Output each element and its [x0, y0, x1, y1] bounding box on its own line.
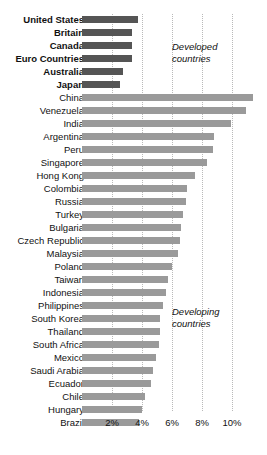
bar	[82, 42, 132, 49]
bar-label: Poland	[0, 261, 84, 272]
bar	[82, 120, 231, 127]
bar-row: Ecuador	[0, 378, 267, 391]
bar	[82, 55, 132, 62]
bar-label: South Korea	[0, 313, 84, 324]
bar-row: Venezuela	[0, 105, 267, 118]
bar-label: Turkey	[0, 209, 84, 220]
bar-row: Taiwan	[0, 274, 267, 287]
bar	[82, 302, 163, 309]
bar-label: Canada	[0, 40, 84, 51]
bar-row: Malaysia	[0, 248, 267, 261]
annotation-developing-line1: Developing	[172, 306, 220, 318]
bar	[82, 133, 214, 140]
x-axis: 2%4%6%8%10%	[0, 417, 267, 431]
annotation-developed-countries: Developed countries	[172, 41, 217, 64]
bar-label: Indonesia	[0, 287, 84, 298]
bar-label: Argentina	[0, 131, 84, 142]
bar-row: Hong Kong	[0, 170, 267, 183]
bar-label: Thailand	[0, 326, 84, 337]
bar-label: China	[0, 92, 84, 103]
bar-row: Japan	[0, 79, 267, 92]
bar-row: Euro Countries	[0, 53, 267, 66]
bar	[82, 289, 166, 296]
bar-row: Canada	[0, 40, 267, 53]
bar-row: Russia	[0, 196, 267, 209]
bar-label: Colombia	[0, 183, 84, 194]
bar-row: China	[0, 92, 267, 105]
chart-bar-rows: United StatesBritainCanadaEuro Countries…	[0, 14, 267, 430]
bar	[82, 406, 142, 413]
bar	[82, 315, 160, 322]
bar	[82, 185, 187, 192]
bar-row: Hungary	[0, 404, 267, 417]
bar-label: Bulgaria	[0, 222, 84, 233]
bar-label: India	[0, 118, 84, 129]
bar-label: Saudi Arabia	[0, 365, 84, 376]
x-axis-tick-label: 6%	[165, 417, 179, 428]
bar-row: South Africa	[0, 339, 267, 352]
bar-label: Hong Kong	[0, 170, 84, 181]
bar-row: Colombia	[0, 183, 267, 196]
bar-label: Philippines	[0, 300, 84, 311]
bar-label: Malaysia	[0, 248, 84, 259]
bar-row: Czech Republic	[0, 235, 267, 248]
bar	[82, 94, 253, 101]
bar-row: Mexico	[0, 352, 267, 365]
bar-label: Singapore	[0, 157, 84, 168]
bar-row: Argentina	[0, 131, 267, 144]
bar	[82, 16, 138, 23]
bar-row: South Korea	[0, 313, 267, 326]
bar	[82, 224, 181, 231]
bar-row: Australia	[0, 66, 267, 79]
x-axis-tick-label: 8%	[195, 417, 209, 428]
bar	[82, 237, 180, 244]
bar	[82, 159, 207, 166]
bar-label: Japan	[0, 79, 84, 90]
bar-label: Euro Countries	[0, 53, 84, 64]
bar-row: Singapore	[0, 157, 267, 170]
bar	[82, 380, 151, 387]
bar-label: South Africa	[0, 339, 84, 350]
bar-label: Taiwan	[0, 274, 84, 285]
bar	[82, 393, 145, 400]
bar-row: Poland	[0, 261, 267, 274]
bar	[82, 211, 183, 218]
annotation-developing-countries: Developing countries	[172, 306, 220, 329]
bar-row: Britain	[0, 27, 267, 40]
bar	[82, 354, 156, 361]
x-axis-tick-label: 4%	[135, 417, 149, 428]
bar-label: Australia	[0, 66, 84, 77]
bar	[82, 276, 168, 283]
bar-row: United States	[0, 14, 267, 27]
bar-row: India	[0, 118, 267, 131]
bar-row: Chile	[0, 391, 267, 404]
bar-label: Ecuador	[0, 378, 84, 389]
bar-row: Bulgaria	[0, 222, 267, 235]
bar	[82, 172, 195, 179]
x-axis-tick-label: 2%	[105, 417, 119, 428]
bar-label: Hungary	[0, 404, 84, 415]
annotation-developed-line1: Developed	[172, 41, 217, 53]
bar	[82, 341, 159, 348]
bar-label: Chile	[0, 391, 84, 402]
bar	[82, 107, 246, 114]
bar-label: Venezuela	[0, 105, 84, 116]
bar	[82, 263, 172, 270]
x-axis-tick-label: 10%	[222, 417, 241, 428]
bar-row: Thailand	[0, 326, 267, 339]
bar-label: Mexico	[0, 352, 84, 363]
bar-row: Peru	[0, 144, 267, 157]
annotation-developing-line2: countries	[172, 318, 220, 330]
bar	[82, 198, 186, 205]
bar-row: Philippines	[0, 300, 267, 313]
bar-label: Peru	[0, 144, 84, 155]
bar-label: Russia	[0, 196, 84, 207]
bar	[82, 29, 132, 36]
bar-label: Czech Republic	[0, 235, 84, 246]
bar	[82, 146, 213, 153]
bar	[82, 367, 153, 374]
bar-row: Turkey	[0, 209, 267, 222]
bar-chart: United StatesBritainCanadaEuro Countries…	[0, 0, 267, 455]
bar-row: Saudi Arabia	[0, 365, 267, 378]
bar-label: United States	[0, 14, 84, 25]
